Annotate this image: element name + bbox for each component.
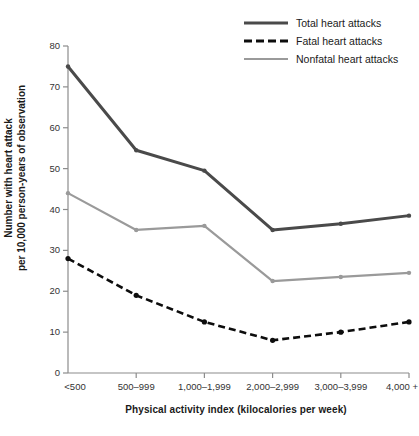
- y-tick-label: 50: [38, 163, 60, 174]
- data-point: [406, 319, 411, 324]
- series-line-total-heart-attacks: [68, 66, 409, 230]
- data-point: [202, 224, 206, 228]
- data-point: [65, 256, 70, 261]
- y-axis-title: Number with heart attack per 10,000 pers…: [2, 8, 28, 348]
- plot-area: [0, 0, 419, 436]
- x-tick-label: 4,000 +: [357, 381, 419, 392]
- data-point: [202, 168, 206, 172]
- data-point: [407, 271, 411, 275]
- y-tick-label: 10: [38, 326, 60, 337]
- data-point: [338, 330, 343, 335]
- data-point: [407, 213, 411, 217]
- data-point: [270, 279, 274, 283]
- y-tick-label: 70: [38, 81, 60, 92]
- data-point: [339, 275, 343, 279]
- y-tick-label: 0: [38, 367, 60, 378]
- data-point: [202, 319, 207, 324]
- y-tick-label: 60: [38, 122, 60, 133]
- x-axis-title: Physical activity index (kilocalories pe…: [60, 404, 412, 415]
- data-point: [270, 338, 275, 343]
- y-tick-label: 80: [38, 40, 60, 51]
- line-chart-figure: Total heart attacks Fatal heart attacks …: [0, 0, 419, 436]
- data-point: [66, 64, 70, 68]
- y-tick-label: 20: [38, 285, 60, 296]
- y-axis-title-line1: Number with heart attack: [2, 8, 15, 348]
- data-point: [134, 293, 139, 298]
- data-point: [339, 222, 343, 226]
- data-point: [134, 148, 138, 152]
- series-line-fatal-heart-attacks: [68, 259, 409, 341]
- data-point: [66, 191, 70, 195]
- data-point: [134, 228, 138, 232]
- y-tick-label: 40: [38, 204, 60, 215]
- data-point: [270, 228, 274, 232]
- y-axis-title-line2: per 10,000 person-years of observation: [15, 8, 28, 348]
- series-line-nonfatal-heart-attacks: [68, 193, 409, 281]
- y-tick-label: 30: [38, 244, 60, 255]
